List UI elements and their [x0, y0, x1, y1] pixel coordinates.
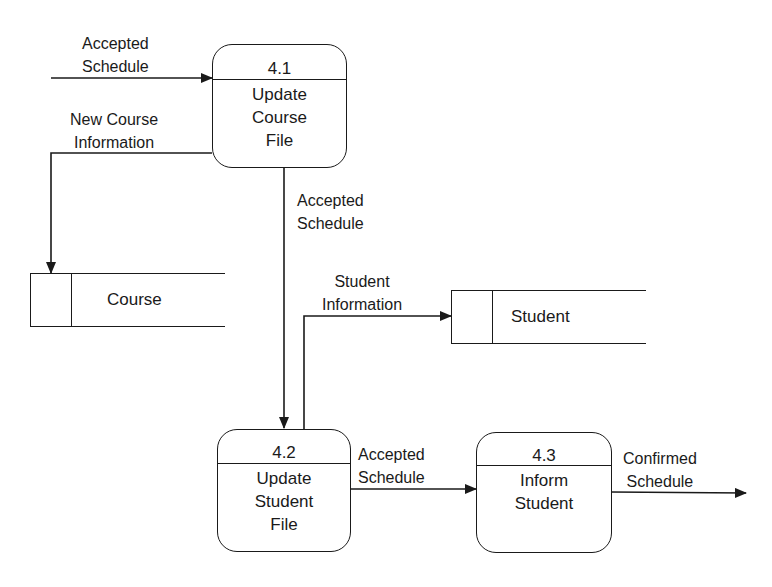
process-name-line: Student [477, 492, 611, 515]
flow-label-line: Schedule [297, 212, 364, 235]
process-name-line: Inform [477, 469, 611, 492]
flow-label-line: Accepted [358, 443, 425, 466]
flow-label: New Course Information [70, 108, 158, 154]
flow-label-line: Schedule [623, 470, 697, 493]
process-name-line: File [218, 513, 350, 536]
flow-label-line: Student [322, 270, 402, 293]
flow-new-course-info [51, 153, 212, 273]
flow-label-line: Confirmed [623, 447, 697, 470]
flow-label-line: Accepted [82, 32, 149, 55]
process-name-line: File [213, 129, 346, 152]
process-number: 4.3 [477, 433, 611, 466]
process-name-line: Course [213, 106, 346, 129]
flow-label-line: Schedule [82, 55, 149, 78]
datastore-course[interactable]: Course [30, 273, 225, 327]
datastore-id-box [451, 291, 493, 343]
process-name-line: Update [213, 83, 346, 106]
flow-label-line: Accepted [297, 189, 364, 212]
flow-label: Confirmed Schedule [623, 447, 697, 493]
flow-label-line: New Course [70, 108, 158, 131]
process-4-3[interactable]: 4.3 Inform Student [476, 432, 612, 553]
datastore-name: Course [107, 290, 162, 310]
flow-label: Accepted Schedule [82, 32, 149, 78]
datastore-id-box [30, 274, 72, 326]
process-number: 4.2 [218, 430, 350, 464]
datastore-student[interactable]: Student [451, 290, 646, 344]
process-4-1[interactable]: 4.1 Update Course File [212, 44, 347, 168]
flow-label-line: Schedule [358, 466, 425, 489]
process-name-line: Update [218, 467, 350, 490]
flow-label: Student Information [322, 270, 402, 316]
process-4-2[interactable]: 4.2 Update Student File [217, 429, 351, 552]
process-name-line: Student [218, 490, 350, 513]
flow-label: Accepted Schedule [358, 443, 425, 489]
flow-label-line: Information [70, 131, 158, 154]
process-number: 4.1 [213, 45, 346, 80]
flow-label: Accepted Schedule [297, 189, 364, 235]
datastore-name: Student [511, 307, 570, 327]
flow-label-line: Information [322, 293, 402, 316]
flow-student-info [304, 316, 451, 429]
